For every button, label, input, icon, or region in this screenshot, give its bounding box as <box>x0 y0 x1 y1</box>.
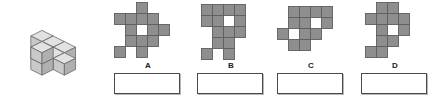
cube-stack-figure <box>8 10 100 78</box>
pattern-cell <box>322 18 333 29</box>
question-stage: A B C D <box>0 0 429 104</box>
pattern-cell <box>377 47 388 58</box>
pattern-cell <box>235 5 246 16</box>
pattern-cell <box>224 27 235 38</box>
pattern-b-svg <box>201 4 247 61</box>
cube-stack-svg <box>8 10 100 78</box>
pattern-cell <box>115 14 126 25</box>
option-c-label: C <box>268 61 354 71</box>
option-a: A <box>105 0 191 104</box>
option-b: B <box>188 0 274 104</box>
pattern-cell <box>311 7 322 18</box>
option-d-label: D <box>352 61 429 71</box>
pattern-cell <box>377 36 388 47</box>
pattern-b <box>188 0 274 60</box>
pattern-cell <box>137 3 148 14</box>
pattern-cell <box>399 25 410 36</box>
pattern-cell <box>322 7 333 18</box>
pattern-cell <box>159 25 170 36</box>
pattern-cell <box>388 36 399 47</box>
pattern-cell <box>377 3 388 14</box>
pattern-cell <box>213 16 224 27</box>
pattern-cell <box>311 29 322 40</box>
pattern-c <box>268 0 354 60</box>
pattern-cell <box>137 47 148 58</box>
pattern-cell <box>377 25 388 36</box>
pattern-d-svg <box>365 2 411 59</box>
pattern-c-svg <box>277 6 334 52</box>
pattern-d <box>352 0 429 60</box>
pattern-cell <box>224 38 235 49</box>
pattern-cell <box>148 14 159 25</box>
pattern-cell <box>278 29 289 40</box>
pattern-cell <box>224 5 235 16</box>
pattern-cell <box>202 49 213 60</box>
pattern-cell <box>289 18 300 29</box>
pattern-cell <box>366 14 377 25</box>
pattern-a-svg <box>114 2 171 59</box>
pattern-cell <box>137 36 148 47</box>
pattern-cell <box>289 7 300 18</box>
pattern-cell <box>300 40 311 51</box>
answer-box-a[interactable] <box>114 73 180 94</box>
pattern-cell <box>300 7 311 18</box>
pattern-cell <box>289 40 300 51</box>
pattern-a <box>105 0 191 60</box>
pattern-cell <box>213 5 224 16</box>
option-b-label: B <box>188 61 274 71</box>
pattern-cell <box>148 25 159 36</box>
pattern-cell <box>126 25 137 36</box>
pattern-cell <box>366 47 377 58</box>
pattern-cell <box>148 36 159 47</box>
pattern-cell <box>300 18 311 29</box>
pattern-cell <box>126 14 137 25</box>
answer-box-b[interactable] <box>197 73 263 94</box>
pattern-cell <box>399 14 410 25</box>
pattern-cell <box>388 14 399 25</box>
pattern-cell <box>300 29 311 40</box>
pattern-cell <box>137 14 148 25</box>
answer-box-d[interactable] <box>361 73 427 94</box>
pattern-cell <box>377 14 388 25</box>
pattern-cell <box>235 16 246 27</box>
pattern-cell <box>235 27 246 38</box>
pattern-cell <box>213 38 224 49</box>
pattern-cell <box>213 27 224 38</box>
pattern-cell <box>202 16 213 27</box>
pattern-cell <box>388 3 399 14</box>
pattern-cell <box>202 5 213 16</box>
pattern-cell <box>126 36 137 47</box>
option-a-label: A <box>105 61 191 71</box>
option-c: C <box>268 0 354 104</box>
option-d: D <box>352 0 429 104</box>
pattern-cell <box>224 49 235 60</box>
pattern-cell <box>115 47 126 58</box>
answer-box-c[interactable] <box>277 73 343 94</box>
